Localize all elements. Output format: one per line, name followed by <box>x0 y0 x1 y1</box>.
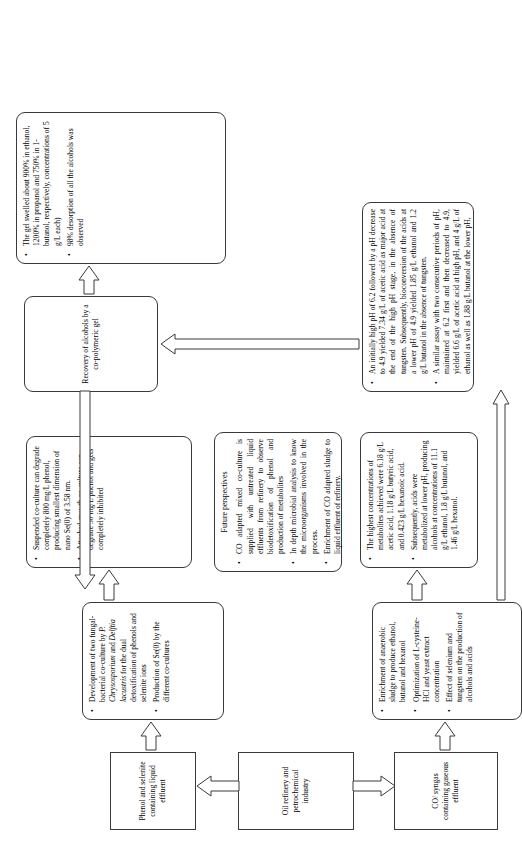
box-metabolite-concentrations: The highest concentrations of metabolite… <box>360 432 478 568</box>
box-co-culture-results: Suspended co-culture can degrade complet… <box>26 436 192 568</box>
arrow-oil-refinery-to-co-syngas <box>352 775 396 797</box>
bullet-item: 98% desorption of all the alcohols was o… <box>66 119 86 257</box>
co-syngas-source-text: CO/ syngas containing gaseouseffluent <box>427 753 466 829</box>
box-phenol-selenite-source: Phenol and selenitecontaining liquideffl… <box>110 752 196 830</box>
bullet-item: Enrichment of CO adapted sludge to liqui… <box>323 439 343 565</box>
bullet-item: In depth microbial analysis to know the … <box>289 439 320 565</box>
arrow-co-syngas-to-sludge-enrichment <box>434 721 456 751</box>
ph-assay-results-list: An initially high pH of 6.2 followed by … <box>368 209 473 385</box>
bullet-item: Effect of selenium and tungsten on the p… <box>445 609 476 713</box>
arrow-sludge-enrichment-to-metabolites <box>406 569 428 601</box>
bullet-item: The gel swelled about 900% in ethanol, 1… <box>22 119 63 257</box>
arrow-alcohol-recovery-to-gel-results <box>78 265 100 295</box>
arrow-phenol-effluent-to-co-culture-development <box>140 721 162 751</box>
bullet-item: Optimization of L-cysteine-HCl and yeast… <box>412 609 443 713</box>
bullet-item: A similar assay with two consecutive per… <box>432 209 473 385</box>
bullet-item: Enrichment of anaerobic sludge to produc… <box>378 609 409 713</box>
sludge-enrichment-list: Enrichment of anaerobic sludge to produc… <box>378 609 476 713</box>
gel-results-list: The gel swelled about 900% in ethanol, 1… <box>22 119 86 257</box>
alcohol-recovery-text: Recovery of alcohols by aco-polymeric ge… <box>77 299 105 388</box>
metabolite-concentrations-list: The highest concentrations of metabolite… <box>366 439 461 561</box>
box-future-perspectives: Future perspectives CO adapted mixed co-… <box>214 432 342 572</box>
arrow-co-culture-development-to-results <box>98 569 120 601</box>
bullet-item: Production of Se(0) by the different co-… <box>152 609 172 713</box>
oil-refinery-source-text: Oil refinery andpetrochemical industry <box>277 753 316 829</box>
box-gel-results: The gel swelled about 900% in ethanol, 1… <box>16 112 226 264</box>
bullet-item: CO adapted mixed co-culture is supplied … <box>235 439 286 565</box>
co-culture-development-list: Development of two fungal-bacterial co-c… <box>88 609 172 713</box>
box-ph-assay-results: An initially high pH of 6.2 followed by … <box>362 202 474 392</box>
phenol-selenite-source-text: Phenol and selenitecontaining liquideffl… <box>134 756 173 825</box>
box-oil-refinery-source: Oil refinery andpetrochemical industry <box>238 752 354 830</box>
arrow-oil-refinery-to-phenol-effluent <box>196 775 240 797</box>
box-sludge-enrichment: Enrichment of anaerobic sludge to produc… <box>372 602 522 720</box>
bullet-item: Development of two fungal-bacterial co-c… <box>88 609 149 713</box>
box-alcohol-recovery: Recovery of alcohols by aco-polymeric ge… <box>24 296 158 392</box>
future-perspectives-heading: Future perspectives <box>220 439 230 565</box>
future-perspectives-list: CO adapted mixed co-culture is supplied … <box>235 439 343 565</box>
box-co-syngas-source: CO/ syngas containing gaseouseffluent <box>394 752 498 830</box>
arrow-sludge-enrichment-to-ph-assay <box>492 389 510 601</box>
box-co-culture-development: Development of two fungal-bacterial co-c… <box>82 602 224 720</box>
bullet-item: The highest concentrations of metabolite… <box>366 439 407 561</box>
bullet-item: Suspended co-culture can degrade complet… <box>32 443 73 561</box>
bullet-item: Subsequently, acids were metabolized at … <box>410 439 461 561</box>
arrow-metabolites-to-alcohol-recovery <box>160 333 360 355</box>
arrow-alcohol-recovery-to-future-perspectives <box>74 390 96 590</box>
bullet-item: An initially high pH of 6.2 followed by … <box>368 209 429 385</box>
